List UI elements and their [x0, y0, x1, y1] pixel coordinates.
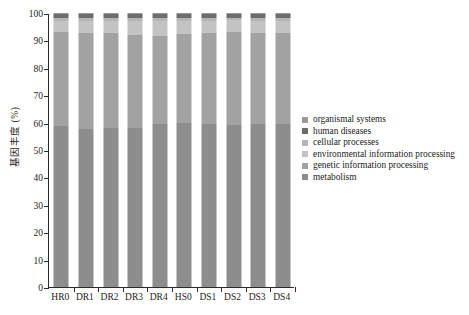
- x-axis-tick: [123, 287, 124, 292]
- y-axis-tick: [44, 261, 49, 262]
- x-axis-tick: [172, 287, 173, 292]
- y-axis-tick: [44, 288, 49, 289]
- y-axis-tick: [44, 69, 49, 70]
- y-axis-tick-label: 100: [29, 9, 43, 19]
- bar-hr0[interactable]: [54, 13, 69, 287]
- bar-segment: [128, 35, 143, 127]
- bar-segment: [201, 21, 216, 33]
- legend-label: human diseases: [313, 126, 371, 138]
- y-axis-tick: [44, 233, 49, 234]
- x-axis-tick: [74, 287, 75, 292]
- bar-segment: [201, 33, 216, 124]
- x-axis-tick-label: DS2: [224, 292, 241, 302]
- y-axis-tick-label: 70: [34, 91, 44, 101]
- legend-swatch-icon: [302, 140, 308, 146]
- bar-dr2[interactable]: [103, 13, 118, 287]
- x-axis-tick-label: DS3: [249, 292, 266, 302]
- legend-item[interactable]: cellular processes: [302, 137, 468, 149]
- x-axis-tick: [221, 287, 222, 292]
- x-axis-tick-label: DR2: [101, 292, 119, 302]
- bar-segment: [103, 21, 118, 33]
- x-axis-tick: [98, 287, 99, 292]
- legend-item[interactable]: organismal systems: [302, 114, 468, 126]
- y-axis-tick-label: 40: [34, 173, 44, 183]
- x-axis-tick-label: HR0: [51, 292, 69, 302]
- legend-item[interactable]: metabolism: [302, 172, 468, 184]
- stacked-bar-chart: 基因丰度 (%) 0102030405060708090100 HR0DR1DR…: [0, 0, 469, 315]
- bar-segment: [251, 124, 266, 287]
- bar-segment: [201, 124, 216, 287]
- bar-segment: [54, 126, 69, 287]
- bar-dr1[interactable]: [78, 13, 93, 287]
- bar-segment: [177, 21, 192, 34]
- bar-hs0[interactable]: [177, 13, 192, 287]
- bar-segment: [54, 32, 69, 126]
- bar-segment: [275, 124, 290, 287]
- bar-segment: [152, 21, 167, 36]
- legend-label: environmental information processing: [313, 149, 455, 161]
- legend-item[interactable]: human diseases: [302, 126, 468, 138]
- y-axis-tick-label: 10: [34, 256, 44, 266]
- x-axis-tick: [197, 287, 198, 292]
- y-axis-tick-label: 0: [38, 283, 43, 293]
- x-axis-tick: [270, 287, 271, 292]
- y-axis-label: 基因丰度 (%): [7, 97, 21, 177]
- bar-segment: [78, 21, 93, 33]
- bar-ds1[interactable]: [201, 13, 216, 287]
- legend-label: genetic information processing: [313, 160, 428, 172]
- y-axis-tick: [44, 151, 49, 152]
- y-axis-tick: [44, 96, 49, 97]
- y-axis-tick-label: 50: [34, 146, 44, 156]
- legend-label: metabolism: [313, 172, 356, 184]
- legend-swatch-icon: [302, 117, 308, 123]
- y-axis-tick-label: 60: [34, 119, 44, 129]
- y-axis-tick-label: 80: [34, 64, 44, 74]
- x-axis-tick-label: DR1: [76, 292, 94, 302]
- y-axis-tick: [44, 41, 49, 42]
- legend-swatch-icon: [302, 128, 308, 134]
- bar-segment: [78, 129, 93, 287]
- bar-segment: [251, 33, 266, 124]
- y-axis-tick-label: 90: [34, 36, 44, 46]
- bar-ds3[interactable]: [251, 13, 266, 287]
- bar-segment: [275, 21, 290, 33]
- y-axis-tick: [44, 14, 49, 15]
- x-axis-tick-label: DR4: [150, 292, 168, 302]
- bar-segment: [152, 36, 167, 124]
- bar-segment: [103, 128, 118, 287]
- plot-area: 0102030405060708090100: [48, 14, 294, 288]
- bar-segment: [152, 124, 167, 287]
- y-axis-tick: [44, 124, 49, 125]
- x-axis-tick-label: DS1: [199, 292, 216, 302]
- bar-segment: [54, 21, 69, 32]
- x-axis-tick-label: DS4: [273, 292, 290, 302]
- legend-swatch-icon: [302, 174, 308, 180]
- bar-segment: [251, 21, 266, 33]
- bar-segment: [103, 33, 118, 128]
- bar-ds2[interactable]: [226, 13, 241, 287]
- x-axis-tick-label: HS0: [175, 292, 192, 302]
- y-axis-tick: [44, 206, 49, 207]
- bar-dr4[interactable]: [152, 13, 167, 287]
- bar-dr3[interactable]: [128, 13, 143, 287]
- legend-label: organismal systems: [313, 114, 386, 126]
- bar-segment: [275, 33, 290, 124]
- x-axis-tick-label: DR3: [125, 292, 143, 302]
- bar-segment: [226, 20, 241, 32]
- bar-segment: [128, 21, 143, 35]
- legend-item[interactable]: genetic information processing: [302, 160, 468, 172]
- bar-segment: [226, 125, 241, 287]
- bar-segment: [177, 123, 192, 287]
- bar-segment: [128, 128, 143, 287]
- x-axis-tick: [246, 287, 247, 292]
- legend-label: cellular processes: [313, 137, 379, 149]
- bar-segment: [78, 33, 93, 129]
- y-axis-tick-label: 20: [34, 228, 44, 238]
- x-axis-tick: [295, 287, 296, 292]
- chart-legend: organismal systemshuman diseasescellular…: [302, 114, 468, 183]
- legend-swatch-icon: [302, 151, 308, 157]
- y-axis-tick: [44, 178, 49, 179]
- bar-ds4[interactable]: [275, 13, 290, 287]
- legend-item[interactable]: environmental information processing: [302, 149, 468, 161]
- x-axis-tick: [147, 287, 148, 292]
